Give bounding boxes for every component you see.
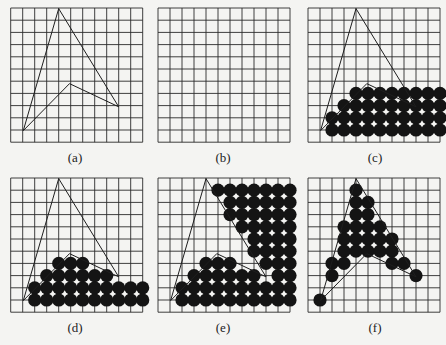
pixel-dot <box>235 196 248 209</box>
pixel-dot <box>259 293 272 306</box>
pixel-dot <box>349 111 362 124</box>
pixel-dot <box>421 99 434 112</box>
pixel-dot <box>124 293 137 306</box>
pixel-dot <box>64 269 77 282</box>
pixel-dot <box>361 232 374 245</box>
pixel-dot <box>187 293 200 306</box>
pixel-dot <box>421 111 434 124</box>
pixel-dot <box>88 293 101 306</box>
pixel-dot <box>112 293 125 306</box>
pixel-dot <box>373 245 386 258</box>
pixel-dot <box>349 232 362 245</box>
pixel-dot <box>337 245 350 258</box>
pixel-dot <box>283 293 296 306</box>
pixel-dot <box>313 293 326 306</box>
pixel-dot <box>283 184 296 197</box>
pixel-dot <box>337 257 350 270</box>
pixel-dot <box>235 208 248 221</box>
pixel-dot <box>40 293 53 306</box>
pixel-dot <box>259 257 272 270</box>
pixel-dot <box>409 111 422 124</box>
pixel-dot <box>259 232 272 245</box>
pixel-dot <box>259 184 272 197</box>
pixel-dot <box>271 257 284 270</box>
pixel-dot <box>247 220 260 233</box>
pixel-dot <box>361 245 374 258</box>
filled-pixels <box>325 87 446 137</box>
pixel-dot <box>283 208 296 221</box>
pixel-dot <box>349 220 362 233</box>
pixel-dot <box>271 208 284 221</box>
pixel-dot <box>337 99 350 112</box>
pixel-dot <box>361 220 374 233</box>
pixel-dot <box>385 111 398 124</box>
panel-c <box>308 8 446 142</box>
pixel-dot <box>271 196 284 209</box>
grid <box>11 8 143 142</box>
pixel-dot <box>421 123 434 136</box>
pixel-dot <box>100 281 113 294</box>
pixel-dot <box>52 257 65 270</box>
panel-a <box>11 8 143 142</box>
pixel-dot <box>271 269 284 282</box>
pixel-dot <box>259 220 272 233</box>
pixel-dot <box>124 281 137 294</box>
grid <box>158 8 290 142</box>
pixel-dot <box>271 245 284 258</box>
pixel-dot <box>40 269 53 282</box>
pixel-dot <box>247 245 260 258</box>
pixel-dot <box>211 281 224 294</box>
pixel-dot <box>247 184 260 197</box>
panel-e <box>158 178 297 312</box>
pixel-dot <box>271 184 284 197</box>
pixel-dot <box>271 293 284 306</box>
pixel-dot <box>283 281 296 294</box>
pixel-dot <box>325 123 338 136</box>
pixel-dot <box>361 123 374 136</box>
pixel-dot <box>235 269 248 282</box>
pixel-dot <box>199 257 212 270</box>
pixel-dot <box>247 281 260 294</box>
panel-caption-c: (c) <box>345 150 405 166</box>
panel-f <box>308 178 440 312</box>
pixel-dot <box>235 293 248 306</box>
pixel-dot <box>136 293 149 306</box>
pixel-dot <box>223 184 236 197</box>
pixel-dot <box>283 245 296 258</box>
pixel-dot <box>76 257 89 270</box>
pixel-dot <box>52 293 65 306</box>
pixel-dot <box>337 123 350 136</box>
pixel-dot <box>373 99 386 112</box>
pixel-dot <box>361 99 374 112</box>
pixel-dot <box>211 257 224 270</box>
pixel-dot <box>271 232 284 245</box>
pixel-dot <box>325 257 338 270</box>
pixel-dot <box>397 257 410 270</box>
pixel-dot <box>409 99 422 112</box>
pixel-dot <box>409 269 422 282</box>
panel-caption-e: (e) <box>193 320 253 336</box>
pixel-dot <box>373 111 386 124</box>
pixel-dot <box>397 123 410 136</box>
pixel-dot <box>349 123 362 136</box>
panel-caption-f: (f) <box>345 320 405 336</box>
panel-d <box>11 178 150 312</box>
pixel-dot <box>259 245 272 258</box>
pixel-dot <box>199 293 212 306</box>
pixel-dot <box>373 220 386 233</box>
pixel-dot <box>223 281 236 294</box>
pixel-dot <box>283 196 296 209</box>
pixel-dot <box>211 269 224 282</box>
pixel-dot <box>433 87 446 100</box>
pixel-dot <box>283 220 296 233</box>
pixel-dot <box>409 87 422 100</box>
pixel-dot <box>433 111 446 124</box>
pixel-dot <box>235 220 248 233</box>
pixel-dot <box>385 99 398 112</box>
pixel-dot <box>52 269 65 282</box>
pixel-dot <box>187 269 200 282</box>
pixel-dot <box>349 245 362 258</box>
pixel-dot <box>76 269 89 282</box>
pixel-dot <box>349 99 362 112</box>
pixel-dot <box>337 220 350 233</box>
